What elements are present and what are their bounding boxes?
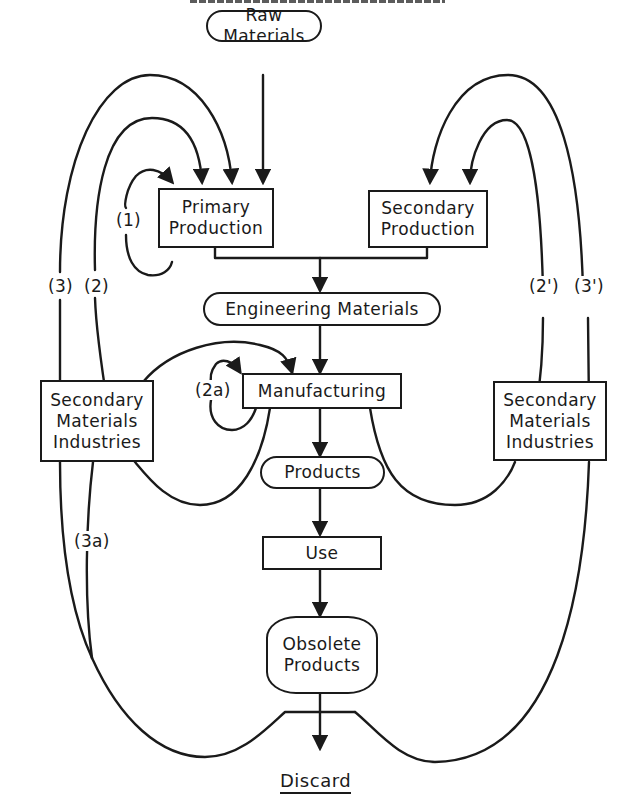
node-smi-left-line2: Materials (50, 411, 144, 432)
label-loop-3prime: (3') (573, 276, 605, 296)
node-smi-left: Secondary Materials Industries (40, 380, 154, 462)
node-secondary-production-line1: Secondary (381, 198, 475, 219)
edge-smi-left-down-b (87, 462, 93, 658)
node-manufacturing-label: Manufacturing (258, 381, 386, 402)
node-raw-materials-label: Raw Materials (208, 5, 320, 47)
node-discard-label: Discard (280, 770, 351, 791)
node-discard: Discard (280, 771, 351, 794)
node-smi-right-line1: Secondary (503, 390, 597, 411)
node-raw-materials: Raw Materials (206, 10, 322, 42)
label-loop-3: (3) (47, 276, 74, 296)
node-primary-production: Primary Production (158, 188, 274, 248)
node-secondary-production: Secondary Production (368, 190, 488, 248)
edge-smi-right-down (355, 462, 589, 762)
label-loop-3a: (3a) (73, 531, 111, 551)
node-primary-production-line2: Production (169, 218, 263, 239)
node-engineering-materials: Engineering Materials (203, 292, 441, 326)
node-smi-left-line1: Secondary (50, 390, 144, 411)
node-use-label: Use (306, 543, 339, 564)
node-obsolete-products-line2: Products (283, 655, 362, 676)
node-obsolete-products: Obsolete Products (266, 616, 378, 694)
label-loop-1: (1) (115, 210, 142, 230)
label-loop-2prime: (2') (528, 276, 560, 296)
node-primary-production-line1: Primary (169, 197, 263, 218)
label-loop-2a: (2a) (194, 380, 232, 400)
node-engineering-materials-label: Engineering Materials (225, 299, 419, 320)
edge-loop-3prime (430, 75, 583, 290)
label-loop-2: (2) (83, 276, 110, 296)
node-use: Use (262, 536, 382, 570)
node-smi-right-line3: Industries (503, 432, 597, 453)
node-products: Products (260, 456, 385, 489)
node-smi-right-line2: Materials (503, 411, 597, 432)
node-manufacturing: Manufacturing (242, 373, 402, 409)
node-smi-right: Secondary Materials Industries (493, 381, 607, 461)
edge-loop-2 (95, 118, 202, 408)
node-products-label: Products (284, 462, 361, 483)
edge-manufacturing-to-smi-left (135, 408, 270, 505)
node-secondary-production-line2: Production (381, 219, 475, 240)
node-obsolete-products-line1: Obsolete (283, 634, 362, 655)
node-smi-left-line3: Industries (50, 432, 144, 453)
